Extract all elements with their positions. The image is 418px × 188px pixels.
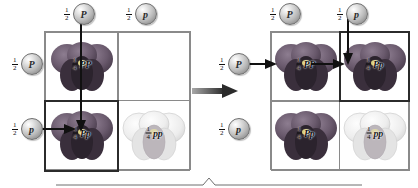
fraction-denominator: 2 xyxy=(270,14,276,22)
fraction-denominator: 2 xyxy=(64,14,70,22)
fraction-one-fourth: 1 4 xyxy=(296,126,302,141)
gamete-top-left[interactable]: 1 2 P xyxy=(270,3,301,25)
fraction-denominator: 2 xyxy=(219,129,225,137)
fraction-denominator: 2 xyxy=(12,129,18,137)
fraction-one-half: 1 2 xyxy=(270,7,276,22)
fraction-one-fourth: 1 4 xyxy=(146,125,152,140)
fraction-one-half: 1 2 xyxy=(337,7,343,22)
gamete-side-bottom[interactable]: 1 2 p xyxy=(12,118,43,140)
fraction-denominator: 4 xyxy=(365,63,371,71)
fraction-denominator: 4 xyxy=(146,132,152,140)
gamete-arrow-vertical xyxy=(74,16,88,132)
fraction-denominator: 2 xyxy=(12,64,18,72)
genotype-text: Pp xyxy=(373,58,384,69)
allele-label: p xyxy=(29,124,34,135)
genotype-label-r1c1: 1 4 pp xyxy=(146,125,163,140)
fraction-one-half: 1 2 xyxy=(12,122,18,137)
fraction-numerator: 1 xyxy=(337,7,343,14)
allele-circle-p[interactable]: p xyxy=(135,3,157,25)
allele-label: P xyxy=(28,59,34,70)
fraction-numerator: 1 xyxy=(146,125,152,132)
gamete-top-right[interactable]: 1 2 p xyxy=(337,3,368,25)
fraction-numerator: 1 xyxy=(365,56,371,63)
allele-circle-p[interactable]: p xyxy=(21,118,43,140)
transition-arrow-icon xyxy=(192,84,238,98)
fraction-denominator: 4 xyxy=(366,133,372,141)
punnett-cell-r1c1[interactable]: 1 4 pp xyxy=(118,100,190,171)
punnett-cell-r0c1[interactable] xyxy=(118,32,190,101)
fraction-numerator: 1 xyxy=(219,122,225,129)
allele-circle-P[interactable]: P xyxy=(73,3,95,25)
allele-label: p xyxy=(354,9,359,20)
fraction-denominator: 4 xyxy=(296,63,302,71)
fraction-numerator: 1 xyxy=(12,57,18,64)
genotype-text: Pp xyxy=(304,128,315,139)
gamete-side-top[interactable]: 1 2 P xyxy=(12,53,43,75)
fraction-one-fourth: 1 4 xyxy=(366,126,372,141)
gamete-arrow-horizontal-right xyxy=(311,58,345,70)
allele-circle-p[interactable]: p xyxy=(228,118,250,140)
genotype-label-r1c0: 1 4 Pp xyxy=(296,126,314,141)
allele-circle-P[interactable]: P xyxy=(21,53,43,75)
allele-circle-p[interactable]: p xyxy=(346,3,368,25)
punnett-square-step-2: 1 2 P 1 2 p 1 2 P 1 2 p xyxy=(209,0,418,188)
allele-label: P xyxy=(235,59,241,70)
fraction-numerator: 1 xyxy=(296,56,302,63)
fraction-one-half: 1 2 xyxy=(219,57,225,72)
gamete-top-right[interactable]: 1 2 p xyxy=(126,3,157,25)
fraction-numerator: 1 xyxy=(12,122,18,129)
genotype-text: pp xyxy=(374,128,383,139)
allele-label: p xyxy=(143,9,148,20)
allele-circle-P[interactable]: P xyxy=(279,3,301,25)
allele-circle-P[interactable]: P xyxy=(228,53,250,75)
genotype-text: pp xyxy=(153,127,162,138)
fraction-one-half: 1 2 xyxy=(64,7,70,22)
gamete-top-left[interactable]: 1 2 P xyxy=(64,3,95,25)
fraction-one-fourth: 1 4 xyxy=(365,56,371,71)
fraction-denominator: 2 xyxy=(126,14,132,22)
fraction-numerator: 1 xyxy=(219,57,225,64)
gamete-side-top[interactable]: 1 2 P xyxy=(219,53,250,75)
fraction-denominator: 4 xyxy=(296,133,302,141)
fraction-numerator: 1 xyxy=(296,126,302,133)
fraction-one-half: 1 2 xyxy=(12,57,18,72)
punnett-grid: 1 4 PP xyxy=(44,31,191,170)
fraction-one-half: 1 2 xyxy=(126,7,132,22)
punnett-cell-r1c1[interactable]: 1 4 pp xyxy=(339,101,410,171)
fraction-denominator: 2 xyxy=(337,14,343,22)
allele-label: p xyxy=(236,124,241,135)
fraction-one-fourth: 1 4 xyxy=(296,56,302,71)
genotype-label-r1c1: 1 4 pp xyxy=(366,126,383,141)
allele-label: P xyxy=(286,9,292,20)
genotype-label-r0c1: 1 4 Pp xyxy=(365,56,383,71)
fraction-one-half: 1 2 xyxy=(219,122,225,137)
fraction-numerator: 1 xyxy=(126,7,132,14)
punnett-grid: 1 4 PP xyxy=(270,31,409,170)
punnett-square-step-1: 1 2 P 1 2 p 1 2 P 1 2 p xyxy=(0,0,209,188)
allele-label: P xyxy=(80,9,86,20)
fraction-denominator: 2 xyxy=(219,64,225,72)
punnett-cell-r1c0[interactable]: 1 4 Pp xyxy=(271,101,340,171)
bottom-bracket xyxy=(56,174,362,186)
gamete-side-bottom[interactable]: 1 2 p xyxy=(219,118,250,140)
fraction-numerator: 1 xyxy=(270,7,276,14)
fraction-numerator: 1 xyxy=(366,126,372,133)
fraction-numerator: 1 xyxy=(64,7,70,14)
